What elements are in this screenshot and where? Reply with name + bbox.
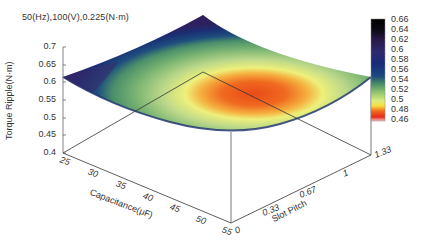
colorbar-tick: 0.66 bbox=[391, 14, 409, 24]
z-tick: 0.65 bbox=[28, 59, 56, 69]
colorbar-tick: 0.56 bbox=[391, 64, 409, 74]
colorbar-tick: 0.48 bbox=[391, 104, 409, 114]
surface-chart: 50(Hz),100(V),0.225(N·m) 0.7 0.65 0.6 0.… bbox=[0, 0, 431, 245]
colorbar-tick: 0.62 bbox=[391, 34, 409, 44]
colorbar-tick: 0.54 bbox=[391, 74, 409, 84]
z-tick: 0.4 bbox=[28, 147, 56, 157]
z-tick: 0.5 bbox=[28, 112, 56, 122]
colorbar-tick: 0.64 bbox=[391, 24, 409, 34]
colorbar-tick: 0.6 bbox=[391, 44, 404, 54]
z-axis-label: Torque Ripple(N·m) bbox=[4, 61, 14, 140]
z-tick: 0.45 bbox=[28, 129, 56, 139]
colorbar-tick: 0.52 bbox=[391, 84, 409, 94]
z-tick: 0.55 bbox=[28, 94, 56, 104]
chart-title: 50(Hz),100(V),0.225(N·m) bbox=[22, 12, 129, 22]
colorbar bbox=[371, 19, 385, 121]
z-tick: 0.6 bbox=[28, 76, 56, 86]
colorbar-tick: 0.46 bbox=[391, 114, 409, 124]
colorbar-tick: 0.5 bbox=[391, 94, 404, 104]
z-tick: 0.7 bbox=[28, 41, 56, 51]
colorbar-tick: 0.58 bbox=[391, 54, 409, 64]
chart-canvas bbox=[0, 0, 431, 245]
z-axis-ticks bbox=[63, 47, 66, 153]
